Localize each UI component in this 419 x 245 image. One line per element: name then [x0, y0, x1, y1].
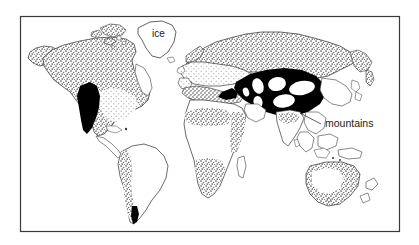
label-ice: ice — [152, 28, 165, 39]
map-figure: ice mountains — [0, 0, 419, 245]
world-map-svg: ice mountains — [0, 0, 419, 245]
region-sahel — [184, 108, 232, 126]
island-tasmania — [327, 198, 330, 201]
label-ice-text: ice — [152, 28, 165, 39]
label-mountains-text: mountains — [325, 117, 373, 129]
